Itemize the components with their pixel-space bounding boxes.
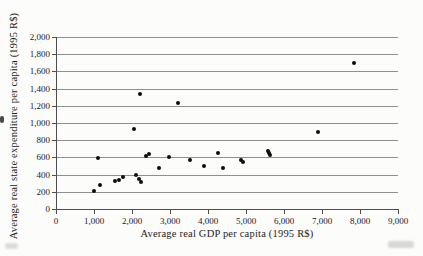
data-point <box>202 164 206 168</box>
data-point <box>216 151 220 155</box>
y-tick-mark <box>52 157 56 158</box>
y-tick-label: 600 <box>0 152 50 162</box>
data-point <box>121 175 125 179</box>
y-tick-label: 1,000 <box>0 118 50 128</box>
data-point <box>157 166 161 170</box>
data-point <box>139 180 143 184</box>
x-tick-mark <box>322 210 323 214</box>
data-point <box>268 153 272 157</box>
data-point <box>117 178 121 182</box>
data-point <box>92 189 96 193</box>
scan-artifact <box>5 243 18 249</box>
y-tick-mark <box>52 175 56 176</box>
data-point <box>316 130 320 134</box>
y-tick-mark <box>52 192 56 193</box>
x-tick-mark <box>170 210 171 214</box>
y-tick-mark <box>52 71 56 72</box>
y-tick-mark <box>52 140 56 141</box>
x-tick-mark <box>360 210 361 214</box>
data-point <box>176 101 180 105</box>
data-point <box>147 152 151 156</box>
y-tick-mark <box>52 106 56 107</box>
scatter-chart: Average real state expenditure per capit… <box>0 0 423 256</box>
x-tick-mark <box>94 210 95 214</box>
y-tick-label: 1,200 <box>0 101 50 111</box>
x-axis-title: Average real GDP per capita (1995 R$) <box>140 228 313 239</box>
gridline <box>56 106 398 107</box>
x-axis-line <box>56 209 399 210</box>
data-point <box>138 92 142 96</box>
gridline <box>56 71 398 72</box>
y-tick-mark <box>52 37 56 38</box>
y-tick-label: 2,000 <box>0 32 50 42</box>
x-tick-mark <box>56 210 57 214</box>
y-tick-label: 1,400 <box>0 84 50 94</box>
data-point <box>132 127 136 131</box>
y-tick-label: 400 <box>0 170 50 180</box>
gridline <box>56 123 398 124</box>
data-point <box>241 160 245 164</box>
x-tick-label: 9,000 <box>376 216 420 226</box>
gridline <box>56 175 398 176</box>
x-tick-mark <box>246 210 247 214</box>
data-point <box>96 156 100 160</box>
y-tick-mark <box>52 123 56 124</box>
gridline <box>56 89 398 90</box>
y-tick-label: 0 <box>0 204 50 214</box>
y-tick-label: 1,800 <box>0 49 50 59</box>
data-point <box>167 155 171 159</box>
data-point <box>98 183 102 187</box>
data-point <box>221 166 225 170</box>
x-tick-mark <box>132 210 133 214</box>
scan-artifact <box>0 116 4 123</box>
scan-artifact <box>388 241 414 248</box>
data-point <box>188 158 192 162</box>
gridline <box>56 192 398 193</box>
y-tick-mark <box>52 89 56 90</box>
y-axis-line <box>56 37 57 210</box>
y-tick-mark <box>52 54 56 55</box>
x-tick-mark <box>208 210 209 214</box>
y-tick-label: 1,600 <box>0 66 50 76</box>
data-point <box>352 61 356 65</box>
x-tick-mark <box>398 210 399 214</box>
y-tick-label: 800 <box>0 135 50 145</box>
gridline <box>56 157 398 158</box>
gridline <box>56 37 398 38</box>
y-tick-label: 200 <box>0 187 50 197</box>
gridline <box>56 140 398 141</box>
x-tick-mark <box>284 210 285 214</box>
gridline <box>56 54 398 55</box>
